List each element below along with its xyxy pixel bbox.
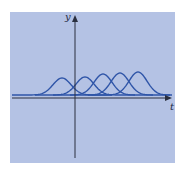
t-axis-label: t [170,101,174,112]
plot-svg [0,0,183,170]
gaussian-curve-1 [12,78,112,95]
gaussian-curves [12,72,172,95]
y-axis-arrow-icon [72,15,78,22]
y-axis-label: y [65,11,71,22]
